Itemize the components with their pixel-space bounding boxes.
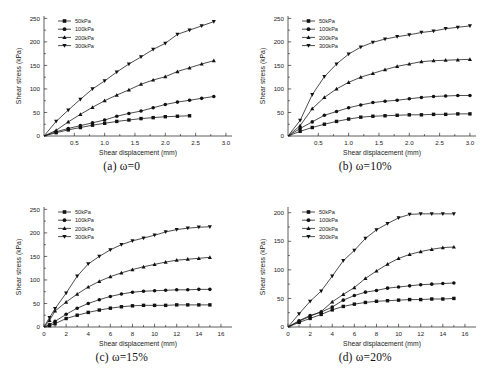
marker-square [142,304,145,307]
x-axis-title: Shear displacement (mm) [99,149,177,157]
marker-circle [75,306,79,310]
marker-circle [306,27,310,31]
marker-circle [452,281,456,285]
marker-square [151,116,154,119]
series-200kPa [288,245,456,327]
marker-circle [164,103,168,107]
marker-circle [346,106,350,110]
marker-circle [419,96,423,100]
marker-square [63,19,67,23]
x-tick-label: 1.0 [100,139,109,146]
marker-triangle-down [139,55,143,59]
marker-square [64,317,67,320]
marker-square [346,117,349,120]
marker-circle [468,94,472,98]
marker-circle [371,101,375,105]
x-tick-label: 2 [308,330,312,337]
legend-label: 200kPa [319,35,339,41]
x-axis-title: Shear displacement (mm) [99,340,177,348]
chart-panel-c: 0246810121416050100150200250Shear displa… [0,193,244,386]
marker-square [188,114,191,117]
marker-circle [363,290,367,294]
legend-label: 50kPa [319,209,336,215]
marker-circle [306,218,310,222]
x-tick-label: 16 [461,330,468,337]
x-tick-label: 0 [42,330,46,337]
marker-circle [66,127,70,131]
x-tick-label: 14 [439,330,446,337]
x-tick-label: 2 [64,330,68,337]
series-50kPa [288,112,472,136]
axis-spines [44,207,232,327]
x-tick-label: 1.5 [374,139,383,146]
legend-d: 50kPa100kPa200kPa300kPa [302,209,339,240]
marker-square [334,120,337,123]
y-tick-label: 200 [273,38,284,45]
marker-circle [322,114,326,118]
marker-circle [98,298,102,302]
marker-triangle-up [64,300,68,304]
figure-four-panel-shear-chart: 0.51.01.52.02.53.0050100150200250Shear d… [0,0,487,386]
marker-triangle-up [212,59,216,63]
marker-square [396,298,399,301]
marker-circle [395,98,399,102]
marker-triangle-up [78,112,82,116]
marker-square [63,210,67,214]
marker-circle [63,27,67,31]
marker-square [115,120,118,123]
y-tick-label: 50 [33,300,40,307]
marker-square [456,112,459,115]
series-100kPa [44,288,212,327]
legend-label: 50kPa [75,209,92,215]
x-tick-label: 4 [330,330,334,337]
y-axis-title: Shear stress (kPa) [259,239,267,295]
marker-circle [103,118,107,122]
caption-panel-d: (d) ω=20% [244,351,487,363]
marker-circle [127,112,131,116]
series-line [288,247,454,327]
axis-spines [44,16,232,136]
marker-triangle-down [385,222,389,226]
y-tick-label: 200 [30,38,41,45]
x-tick-label: 12 [417,330,424,337]
x-axis-title: Shear displacement (mm) [343,340,421,348]
marker-circle [91,121,95,125]
marker-square [109,306,112,309]
x-tick-label: 2.0 [404,139,413,146]
y-axis-title: Shear stress (kPa) [15,239,23,295]
chart-panel-a: 0.51.01.52.02.53.0050100150200250Shear d… [0,0,244,193]
legend-label: 300kPa [319,43,339,49]
y-tick-label: 0 [37,132,41,139]
marker-circle [176,100,180,104]
x-tick-label: 2.5 [191,139,200,146]
legend-label: 300kPa [319,234,339,240]
series-line [288,114,470,136]
marker-triangle-up [66,120,70,124]
marker-triangle-up [208,255,212,259]
legend-label: 300kPa [75,234,95,240]
legend-label: 300kPa [75,43,95,49]
x-tick-label: 0.5 [314,139,323,146]
y-axis-title: Shear stress (kPa) [259,48,267,104]
marker-triangle-up [322,95,326,99]
marker-square [359,115,362,118]
y-tick-label: 50 [277,295,284,302]
marker-circle [358,103,362,107]
series-50kPa [44,303,212,327]
marker-square [75,314,78,317]
marker-square [352,302,355,305]
marker-triangle-down [115,70,119,74]
marker-triangle-down [108,248,112,252]
legend-label: 200kPa [75,35,95,41]
marker-square [452,297,455,300]
series-line [288,59,470,136]
marker-circle [334,110,338,114]
legend-a: 50kPa100kPa200kPa300kPa [58,18,95,49]
marker-square [341,305,344,308]
y-tick-label: 150 [30,62,41,69]
y-tick-label: 200 [273,209,284,216]
x-tick-label: 4 [87,330,91,337]
y-tick-label: 250 [273,15,284,22]
marker-square [419,113,422,116]
legend-label: 50kPa [319,18,336,24]
